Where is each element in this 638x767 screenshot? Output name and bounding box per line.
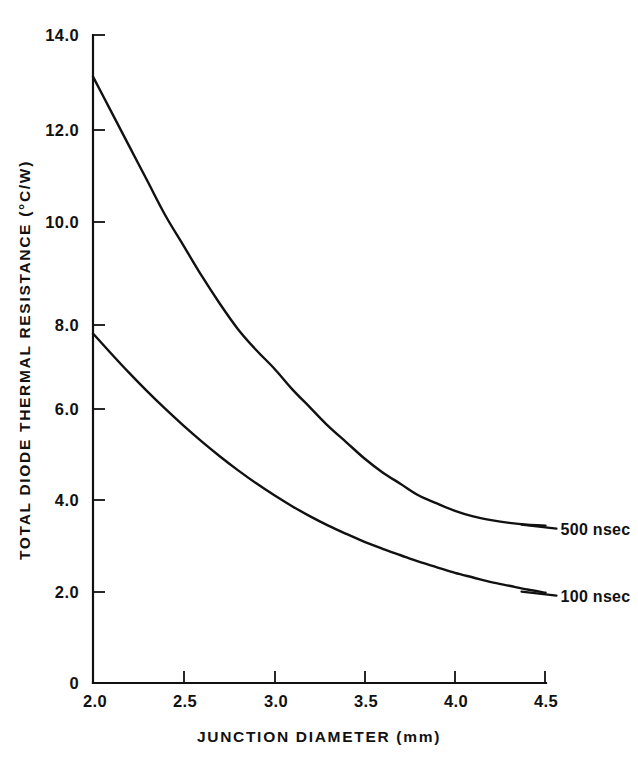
y-tick-label-6: 6.0 [55, 400, 79, 418]
y-tick-label-2: 2.0 [55, 583, 79, 601]
y-tick-label-10: 10.0 [45, 213, 79, 231]
x-tick-label-2p0: 2.0 [83, 692, 107, 710]
x-tick-label-2p5: 2.5 [173, 692, 197, 710]
y-tick-label-4: 4.0 [55, 491, 79, 509]
series-label-500nsec: 500 nsec [561, 521, 631, 538]
x-tick-label-3p0: 3.0 [264, 692, 288, 710]
figure-container: 14.0 12.0 10.0 8.0 6.0 4.0 2.0 0 2.0 2.5… [0, 0, 638, 767]
y-tick-label-0: 0 [69, 674, 79, 692]
y-axis-title: TOTAL DIODE THERMAL RESISTANCE (°C/W) [16, 160, 33, 560]
thermal-resistance-chart: 14.0 12.0 10.0 8.0 6.0 4.0 2.0 0 2.0 2.5… [0, 0, 638, 767]
x-tick-label-4p0: 4.0 [444, 692, 468, 710]
y-tick-label-12: 12.0 [45, 121, 79, 139]
series-label-100nsec: 100 nsec [561, 588, 631, 605]
x-tick-label-4p5: 4.5 [534, 692, 558, 710]
y-tick-label-8: 8.0 [55, 316, 79, 334]
x-axis-title: JUNCTION DIAMETER (mm) [197, 728, 441, 745]
x-tick-label-3p5: 3.5 [354, 692, 378, 710]
y-tick-label-14: 14.0 [45, 26, 79, 44]
series-line-500nsec [93, 77, 546, 526]
series-line-100nsec [93, 334, 546, 593]
